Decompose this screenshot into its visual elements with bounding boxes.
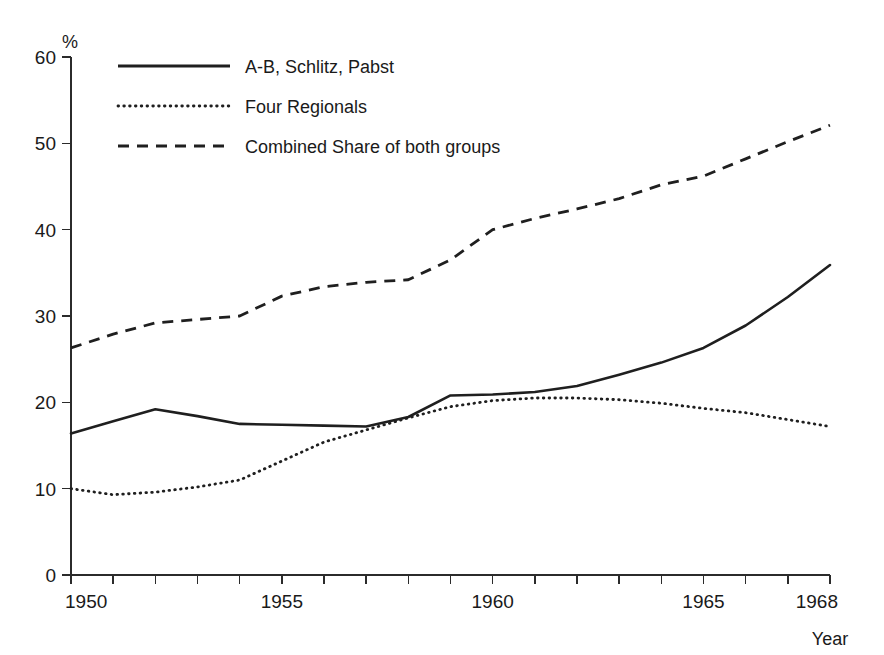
x-axis-ticks: 19501955196019651968 xyxy=(65,575,838,612)
series-line-dotted xyxy=(71,398,830,495)
chart-legend: A-B, Schlitz, PabstFour RegionalsCombine… xyxy=(118,57,500,157)
y-tick-label-50: 50 xyxy=(35,133,56,154)
y-axis-unit-label: % xyxy=(62,32,78,52)
x-tick-label-1965: 1965 xyxy=(682,591,724,612)
y-tick-label-40: 40 xyxy=(35,220,56,241)
y-tick-label-30: 30 xyxy=(35,306,56,327)
series-line-solid xyxy=(71,265,830,433)
x-tick-label-1950: 1950 xyxy=(65,591,107,612)
legend-label-solid: A-B, Schlitz, Pabst xyxy=(245,57,394,77)
y-axis-ticks: 0102030405060 xyxy=(35,47,71,586)
legend-label-dashed: Combined Share of both groups xyxy=(245,137,500,157)
x-tick-label-1955: 1955 xyxy=(261,591,303,612)
series-line-dashed xyxy=(71,125,830,348)
y-tick-label-20: 20 xyxy=(35,392,56,413)
line-chart: % 0102030405060 19501955196019651968 A-B… xyxy=(0,0,884,655)
chart-canvas: % 0102030405060 19501955196019651968 A-B… xyxy=(0,0,884,655)
x-axis-title: Year xyxy=(812,629,848,649)
y-tick-label-10: 10 xyxy=(35,479,56,500)
x-tick-label-1968: 1968 xyxy=(796,591,838,612)
y-tick-label-60: 60 xyxy=(35,47,56,68)
x-tick-label-1960: 1960 xyxy=(472,591,514,612)
y-tick-label-0: 0 xyxy=(45,565,56,586)
legend-label-dotted: Four Regionals xyxy=(245,97,367,117)
data-series-group xyxy=(71,125,830,495)
